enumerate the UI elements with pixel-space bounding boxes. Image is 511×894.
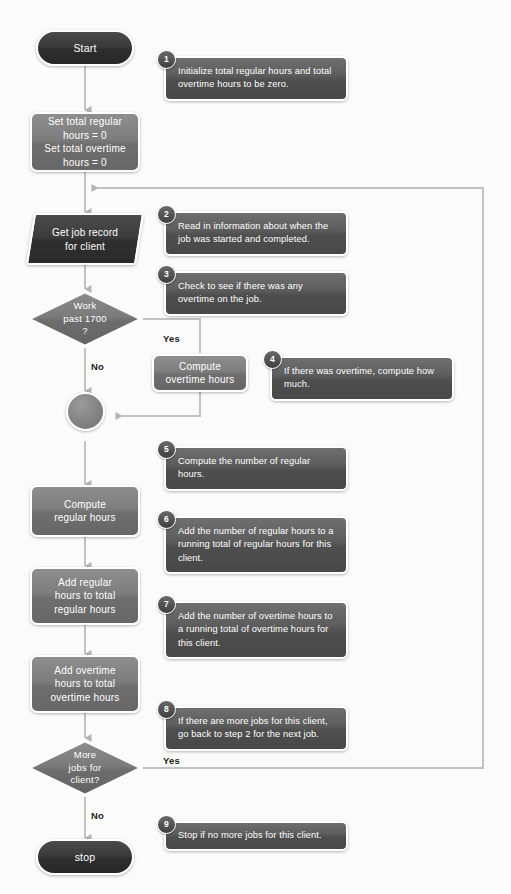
callout-9[interactable]: 9 Stop if no more jobs for this client. [164,821,348,851]
node-compute-overtime[interactable]: Compute overtime hours [152,354,248,392]
callout-7-badge: 7 [157,595,176,614]
callout-2-badge: 2 [157,205,176,224]
callout-9-badge: 9 [157,815,176,834]
node-work-past-1700[interactable]: Work past 1700 ? [27,290,143,348]
callout-4-text: If there was overtime, compute how much. [284,366,434,389]
callout-8-text: If there are more jobs for this client, … [178,716,328,739]
callout-6-text: Add the number of regular hours to a run… [178,526,334,563]
branch-label-overtime-yes: Yes [163,333,180,344]
callout-4[interactable]: 4 If there was overtime, compute how muc… [270,356,454,401]
callout-5-text: Compute the number of regular hours. [178,456,310,479]
callout-3-badge: 3 [157,265,176,284]
node-init-totals[interactable]: Set total regular hours = 0 Set total ov… [30,112,140,172]
node-compute-regular[interactable]: Compute regular hours [30,485,140,537]
callout-2[interactable]: 2 Read in information about when the job… [164,211,348,256]
node-init-totals-label: Set total regular hours = 0 Set total ov… [44,115,125,169]
callout-8-badge: 8 [157,700,176,719]
flowchart-canvas: Start Set total regular hours = 0 Set to… [0,0,511,894]
callout-1-text: Initialize total regular hours and total… [178,66,331,89]
callout-7[interactable]: 7 Add the number of overtime hours to a … [164,601,348,659]
callout-6-badge: 6 [157,510,176,529]
node-add-regular-label: Add regular hours to total regular hours [54,576,116,617]
callout-3[interactable]: 3 Check to see if there was any overtime… [164,271,348,316]
node-add-overtime[interactable]: Add overtime hours to total overtime hou… [30,655,140,713]
node-more-jobs-label: More jobs for client? [27,739,143,797]
node-compute-regular-label: Compute regular hours [54,498,116,525]
node-more-jobs[interactable]: More jobs for client? [27,739,143,797]
node-get-job-record-label: Get job record for client [52,226,118,253]
callout-7-text: Add the number of overtime hours to a ru… [178,611,332,648]
callout-6[interactable]: 6 Add the number of regular hours to a r… [164,516,348,574]
node-work-past-1700-label: Work past 1700 ? [27,290,143,348]
node-merge-connector[interactable] [66,392,105,431]
callout-1[interactable]: 1 Initialize total regular hours and tot… [164,56,348,101]
callout-3-text: Check to see if there was any overtime o… [178,281,303,304]
node-start[interactable]: Start [36,30,134,66]
node-stop[interactable]: stop [36,839,134,875]
branch-label-more-jobs-no: No [91,810,104,821]
node-add-overtime-label: Add overtime hours to total overtime hou… [51,664,120,705]
node-stop-label: stop [75,850,96,864]
node-get-job-record[interactable]: Get job record for client [26,213,144,265]
callout-8[interactable]: 8 If there are more jobs for this client… [164,706,348,751]
node-start-label: Start [73,41,96,55]
callout-5[interactable]: 5 Compute the number of regular hours. [164,446,348,491]
callout-4-badge: 4 [263,350,282,369]
callout-2-text: Read in information about when the job w… [178,221,328,244]
branch-label-overtime-no: No [91,361,104,372]
node-add-regular[interactable]: Add regular hours to total regular hours [30,567,140,625]
node-compute-overtime-label: Compute overtime hours [166,360,235,387]
callout-1-badge: 1 [157,50,176,69]
callout-5-badge: 5 [157,440,176,459]
branch-label-more-jobs-yes: Yes [163,755,180,766]
callout-9-text: Stop if no more jobs for this client. [178,829,322,842]
